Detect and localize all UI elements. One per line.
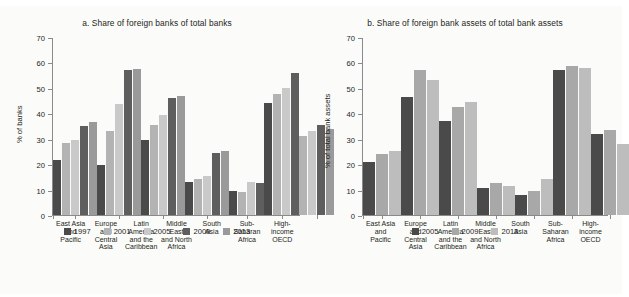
panel-a-y-axis-title: % of banks xyxy=(15,105,24,143)
y-tick-mark xyxy=(48,63,52,64)
y-tick-mark xyxy=(48,165,52,166)
bar-group xyxy=(553,38,591,215)
y-tick-label: 20 xyxy=(37,161,45,170)
bar-group xyxy=(439,38,477,215)
bar xyxy=(401,97,413,215)
legend-swatch-icon xyxy=(452,228,459,235)
bar xyxy=(150,125,158,215)
bar xyxy=(477,188,489,215)
bar xyxy=(194,179,202,215)
legend-swatch-icon xyxy=(144,228,151,235)
legend-label: 2001 xyxy=(114,227,131,236)
top-margin xyxy=(0,0,622,6)
bar xyxy=(264,103,272,215)
bar xyxy=(273,94,281,215)
y-tick-mark xyxy=(358,89,362,90)
bar-group xyxy=(229,38,264,215)
bar-group xyxy=(264,38,299,215)
x-tick-mark xyxy=(282,215,283,219)
bar xyxy=(515,195,527,215)
x-tick-mark xyxy=(382,215,383,219)
bar xyxy=(503,186,515,215)
bar-group xyxy=(477,38,515,215)
y-tick-mark xyxy=(358,216,362,217)
y-tick-mark xyxy=(358,38,362,39)
y-tick-mark xyxy=(48,89,52,90)
y-tick-label: 20 xyxy=(347,161,355,170)
bar xyxy=(566,66,578,215)
legend-item: 2005 xyxy=(412,227,439,236)
bar xyxy=(282,88,290,215)
legend-label: 2009 xyxy=(193,227,210,236)
bar xyxy=(124,70,132,215)
panel-a-legend: 19972001200520092013 xyxy=(4,227,310,236)
panel-a-title: a. Share of foreign banks of total banks xyxy=(4,18,310,28)
y-tick-label: 0 xyxy=(41,212,45,221)
x-tick-mark xyxy=(458,215,459,219)
y-tick-mark xyxy=(358,114,362,115)
bar xyxy=(528,191,540,215)
legend-item: 2009 xyxy=(183,227,210,236)
x-tick-mark xyxy=(610,215,611,219)
x-tick-mark xyxy=(119,215,120,219)
bar xyxy=(177,96,185,216)
y-tick-label: 0 xyxy=(351,212,355,221)
y-tick-mark xyxy=(48,38,52,39)
x-tick-mark xyxy=(163,215,164,219)
bar xyxy=(133,69,141,215)
y-tick-label: 70 xyxy=(347,34,355,43)
bar xyxy=(106,131,114,215)
legend-item: 2001 xyxy=(104,227,131,236)
y-tick-mark xyxy=(48,216,52,217)
y-tick-label: 40 xyxy=(37,110,45,119)
y-tick-mark xyxy=(48,140,52,141)
x-tick-mark xyxy=(363,215,364,219)
bar-group xyxy=(53,38,97,215)
y-tick-mark xyxy=(358,165,362,166)
bar-group xyxy=(141,38,185,215)
bar xyxy=(465,102,477,215)
y-tick-mark xyxy=(358,63,362,64)
y-tick-label: 10 xyxy=(37,186,45,195)
bar xyxy=(553,70,565,215)
bar xyxy=(141,140,149,215)
x-tick-mark xyxy=(53,215,54,219)
bar xyxy=(185,182,193,215)
bar xyxy=(541,179,553,215)
legend-item: 2013 xyxy=(491,227,518,236)
legend-swatch-icon xyxy=(104,228,111,235)
x-tick-mark xyxy=(534,215,535,219)
bar xyxy=(221,151,229,215)
bar xyxy=(53,160,61,215)
legend-swatch-icon xyxy=(183,228,190,235)
y-tick-label: 60 xyxy=(347,59,355,68)
chart-panel-b: b. Share of foreign bank assets of total… xyxy=(312,8,618,250)
legend-swatch-icon xyxy=(491,228,498,235)
y-tick-label: 50 xyxy=(347,84,355,93)
bar xyxy=(203,176,211,215)
bar xyxy=(71,140,79,215)
x-tick-mark xyxy=(75,215,76,219)
y-tick-label: 70 xyxy=(37,34,45,43)
legend-swatch-icon xyxy=(223,228,230,235)
bar-group xyxy=(515,38,553,215)
panel-b-plot-area: 010203040506070 xyxy=(362,38,608,216)
legend-swatch-icon xyxy=(64,228,71,235)
y-tick-mark xyxy=(358,140,362,141)
y-tick-label: 10 xyxy=(347,186,355,195)
bar-group xyxy=(97,38,141,215)
bar xyxy=(617,144,629,215)
y-tick-label: 60 xyxy=(37,59,45,68)
bar xyxy=(80,126,88,215)
bar xyxy=(299,136,307,215)
bar xyxy=(591,134,603,215)
bar-group xyxy=(401,38,439,215)
bar xyxy=(89,122,97,215)
bar xyxy=(247,182,255,215)
legend-label: 2005 xyxy=(154,227,171,236)
bar xyxy=(452,107,464,215)
x-tick-mark xyxy=(496,215,497,219)
x-tick-mark xyxy=(207,215,208,219)
legend-label: 2013 xyxy=(233,227,250,236)
